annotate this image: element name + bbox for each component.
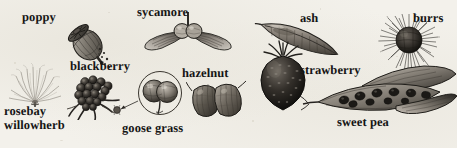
hazelnut-illustration — [186, 78, 248, 120]
paper-speck — [320, 8, 321, 10]
paper-speck — [252, 120, 254, 122]
paper-speck — [60, 140, 63, 141]
label-rosebay-willowherb-line1: rosebay — [4, 105, 46, 119]
label-hazelnut: hazelnut — [182, 67, 229, 81]
label-sweet-pea: sweet pea — [337, 116, 389, 130]
paper-speck — [108, 12, 110, 13]
label-rosebay-willowherb-line2: willowherb — [4, 119, 65, 133]
rosebay-willowherb-illustration — [4, 62, 66, 107]
label-poppy: poppy — [22, 11, 56, 25]
strawberry-calyx — [264, 41, 302, 57]
label-goose-grass: goose grass — [122, 122, 183, 136]
goose-grass-actual-size — [114, 107, 121, 114]
sweet-pea-illustration — [300, 62, 457, 120]
botanical-specimen-plate: poppy — [0, 0, 457, 148]
label-burrs: burrs — [413, 12, 443, 26]
label-ash: ash — [300, 12, 318, 26]
label-sycamore: sycamore — [137, 6, 188, 20]
